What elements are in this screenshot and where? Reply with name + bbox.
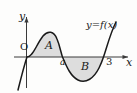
function-label: y=f(x) [86,20,117,30]
y-axis-label: y [19,11,25,22]
origin-label: O [20,42,28,52]
region-a-label: A [45,40,53,51]
region-b-label: B [81,61,89,72]
figure-container: y x O A B a 3 y=f(x) [0,0,137,93]
x-tick-label-3: 3 [106,57,112,67]
x-axis-label: x [126,57,132,68]
x-tick-label-a: a [60,58,65,67]
